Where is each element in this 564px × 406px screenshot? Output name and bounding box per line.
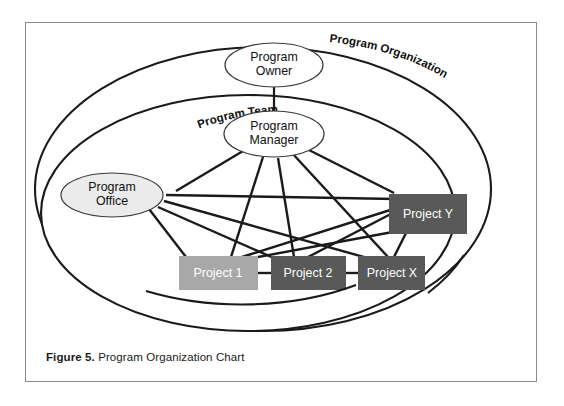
- node-program-manager-label-line2: Manager: [250, 133, 299, 147]
- node-program-manager[interactable]: Program Manager: [224, 111, 324, 157]
- program-organization-diagram: Program Organization Program Team: [26, 23, 538, 383]
- figure-caption-text: Program Organization Chart: [98, 351, 244, 363]
- node-project-y-label: Project Y: [403, 207, 453, 221]
- node-project-1[interactable]: Project 1: [179, 256, 258, 290]
- node-program-office[interactable]: Program Office: [61, 173, 163, 217]
- node-program-office-label-line1: Program: [88, 180, 136, 194]
- node-program-owner-label-line1: Program: [250, 50, 298, 64]
- node-program-manager-label-line1: Program: [250, 119, 298, 133]
- node-project-2-label: Project 2: [284, 266, 333, 280]
- node-project-1-label: Project 1: [194, 266, 243, 280]
- node-project-x-label: Project X: [367, 266, 417, 280]
- figure-caption-label: Figure 5.: [46, 351, 95, 363]
- node-project-x[interactable]: Project X: [358, 256, 425, 290]
- node-program-owner[interactable]: Program Owner: [225, 43, 323, 87]
- node-program-owner-label-line2: Owner: [256, 64, 293, 78]
- node-program-office-label-line2: Office: [96, 194, 128, 208]
- figure-caption: Figure 5. Program Organization Chart: [46, 351, 245, 363]
- node-project-y[interactable]: Project Y: [389, 194, 467, 234]
- figure-frame: Program Organization Program Team: [25, 22, 537, 382]
- node-project-2[interactable]: Project 2: [271, 256, 346, 290]
